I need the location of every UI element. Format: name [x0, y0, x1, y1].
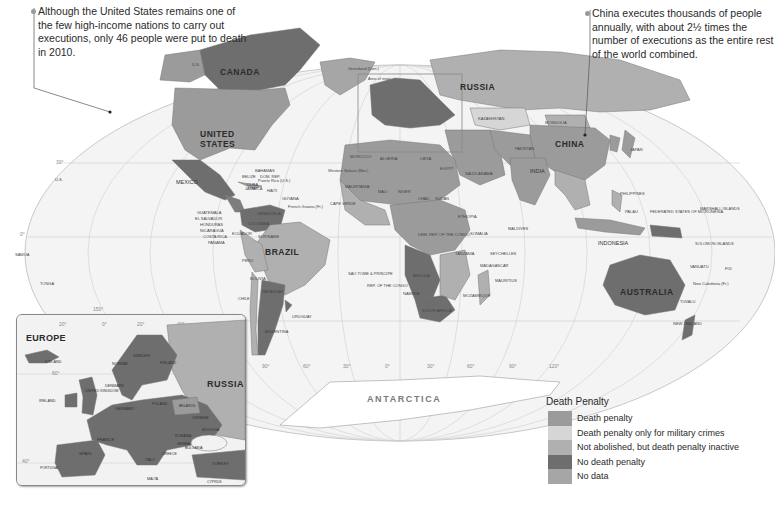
- label-ethiopia: ETHIOPIA: [458, 214, 477, 219]
- callout-bullet-icon: [31, 9, 36, 14]
- label-puerto-rico: Puerto Rico (U.S.): [258, 178, 291, 183]
- label-mozambique: MOZAMBIQUE: [463, 293, 491, 298]
- legend-label: No data: [577, 471, 609, 481]
- label-alaska: U.S.: [192, 62, 200, 67]
- label-egypt: EGYPT: [440, 166, 454, 171]
- inset-label-bulgaria: BULGARIA: [185, 446, 203, 450]
- label-chad: CHAD: [418, 196, 429, 201]
- lon-label-150: 150°: [93, 306, 103, 312]
- label-hawaii: U.S.: [55, 177, 63, 182]
- label-argentina: ARGENTINA: [265, 329, 289, 334]
- label-nicaragua: NICARAGUA: [200, 228, 224, 233]
- label-australia: AUSTRALIA: [620, 287, 674, 297]
- label-mauritius: MAURITIUS: [495, 278, 517, 283]
- label-haiti: HAITI: [267, 188, 277, 193]
- inset-label-iceland: ICELAND: [45, 360, 62, 364]
- inset-deg-40n: 40°: [22, 458, 30, 464]
- label-kazakhstan: KAZAKHSTAN: [478, 116, 504, 121]
- callout-bullet-icon: [585, 11, 590, 16]
- label-united-states-1: UNITED: [200, 129, 235, 139]
- lon-label-90w: 90°: [262, 363, 270, 369]
- label-palau: PALAU: [625, 209, 638, 214]
- inset-label-malta: MALTA: [147, 477, 159, 481]
- label-russia: RUSSIA: [460, 82, 495, 92]
- label-samoa: SAMOA: [15, 252, 30, 257]
- label-south-africa: SOUTH AFRICA: [422, 308, 452, 313]
- lon-label-60w: 60°: [303, 363, 311, 369]
- label-somalia: SOMALIA: [470, 231, 488, 236]
- label-niger: NIGER: [398, 189, 411, 194]
- inset-label-france: FRANCE: [97, 437, 114, 442]
- label-paraguay: PARAGUAY: [262, 289, 284, 294]
- region-chile: [250, 272, 258, 355]
- inset-title: EUROPE: [26, 333, 66, 343]
- label-mongolia: MONGOLIA: [545, 120, 567, 125]
- label-sudan: SUDAN: [435, 196, 449, 201]
- legend-label: Not abolished, but death penalty inactiv…: [577, 442, 739, 452]
- label-new-caledonia: New Caledonia (Fr.): [693, 281, 729, 286]
- us-callout-text: Although the United States remains one o…: [38, 5, 246, 58]
- legend-item: Death penalty: [548, 411, 775, 426]
- legend-swatch: [548, 440, 572, 455]
- inset-label-sweden: SWEDEN: [133, 354, 150, 358]
- label-tuvalu: TUVALU: [680, 299, 696, 304]
- label-suriname: SURINAME: [258, 234, 279, 239]
- label-bolivia: BOLIVIA: [250, 276, 266, 281]
- label-libya: LIBYA: [420, 156, 431, 161]
- inset-label-romania: ROMANIA: [175, 434, 192, 438]
- label-tonga: TONGA: [40, 281, 54, 286]
- label-rep-congo: REP. OF THE CONGO: [367, 283, 408, 288]
- lat-label-0: 0°: [20, 231, 25, 237]
- label-french-guiana: French Guiana (Fr.): [288, 204, 324, 209]
- legend-item: Death penalty only for military crimes: [548, 426, 775, 441]
- label-india: INDIA: [530, 168, 545, 174]
- label-venezuela: VENEZUELA: [257, 211, 281, 216]
- legend-label: Death penalty only for military crimes: [577, 428, 725, 438]
- inset-label-russia: RUSSIA: [207, 379, 244, 389]
- label-saudi-arabia: SAUDI ARABIA: [465, 171, 493, 176]
- inset-label-turkey: TURKEY: [212, 461, 229, 466]
- inset-deg-20e: 20°: [137, 321, 145, 327]
- legend-title: Death Penalty: [546, 396, 775, 407]
- label-cuba: CUBA: [247, 182, 258, 187]
- label-sao-tome: SAO TOME & PRINCIPE: [348, 271, 393, 276]
- label-el-salvador: EL SALVADOR: [195, 216, 222, 221]
- label-mauritania: MAURITANIA: [345, 184, 370, 189]
- label-costa-rica: COSTA RICA: [203, 234, 227, 239]
- label-belize: BELIZE: [242, 174, 256, 179]
- label-dem-rep-congo: DEM. REP. OF THE CONGO: [418, 232, 470, 237]
- lon-label-90e: 90°: [509, 363, 517, 369]
- label-ecuador: ECUADOR: [232, 231, 252, 236]
- label-china: CHINA: [555, 139, 584, 149]
- inset-deg-60n: 60°: [52, 370, 60, 376]
- label-namibia: NAMIBIA: [403, 291, 420, 296]
- lat-label-30n: 30°: [56, 159, 64, 165]
- lon-label-60e: 60°: [467, 363, 475, 369]
- label-morocco: MOROCCO: [350, 154, 371, 159]
- label-fiji: FIJI: [725, 266, 732, 271]
- label-mali: MALI: [378, 189, 387, 194]
- legend-item: Not abolished, but death penalty inactiv…: [548, 440, 775, 455]
- label-new-zealand: NEW ZEALAND: [673, 321, 702, 326]
- label-philippines: PHILIPPINES: [620, 191, 645, 196]
- legend-swatch: [548, 455, 572, 470]
- label-tanzania: TANZANIA: [455, 251, 475, 256]
- inset-label-finland: FINLAND: [160, 361, 177, 365]
- label-solomon-islands: SOLOMON ISLANDS: [695, 241, 734, 246]
- china-callout-text: China executes thousands of people annua…: [592, 7, 774, 60]
- legend-swatch: [548, 469, 572, 484]
- label-bahamas: BAHAMAS: [255, 168, 275, 173]
- label-honduras: HONDURAS: [200, 222, 223, 227]
- label-pakistan: PAKISTAN: [515, 146, 534, 151]
- inset-label-spain: SPAIN: [79, 451, 91, 456]
- label-uruguay: URUGUAY: [292, 314, 312, 319]
- inset-label-uk: UNITED KINGDOM: [85, 389, 118, 393]
- inset-label-belarus: BELARUS: [179, 404, 196, 408]
- legend-item: No data: [548, 469, 775, 484]
- legend-label: No death penalty: [577, 457, 645, 467]
- lon-label-30e: 30°: [427, 363, 435, 369]
- lon-label-30w: 30°: [343, 363, 351, 369]
- inset-label-poland: POLAND: [152, 402, 168, 406]
- inset-label-cyprus: CYPRUS: [207, 480, 222, 484]
- label-cape-verde: CAPE VERDE: [330, 201, 356, 206]
